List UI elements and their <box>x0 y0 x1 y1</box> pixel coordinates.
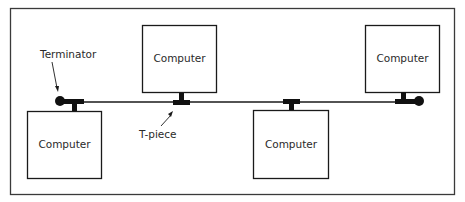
computer-label: Computer <box>153 52 206 64</box>
computer-top-center-left: Computer <box>143 26 217 93</box>
computer-top-right: Computer <box>366 26 440 93</box>
terminator-right-icon <box>395 92 424 106</box>
computer-label: Computer <box>376 52 429 64</box>
t-piece-annotation: T-piece <box>138 128 177 140</box>
terminator-arrow-icon <box>52 62 59 92</box>
terminator-annotation: Terminator <box>39 48 97 60</box>
terminator-left-icon <box>55 96 84 111</box>
t-piece-icon <box>173 93 190 105</box>
computer-bottom-center-right: Computer <box>254 111 329 179</box>
t-piece-arrow-icon <box>161 111 173 126</box>
t-piece-icon <box>283 99 300 110</box>
computer-label: Computer <box>38 138 91 150</box>
computer-label: Computer <box>265 138 318 150</box>
computer-bottom-left: Computer <box>28 112 102 179</box>
bus-topology-diagram: Computer Computer Computer Computer Term… <box>0 0 465 202</box>
